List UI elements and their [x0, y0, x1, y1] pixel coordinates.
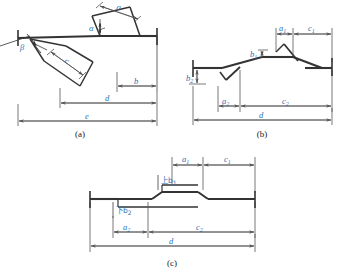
- panel-c-label-a2: a2: [123, 222, 130, 233]
- panel-a-label-d: d: [105, 93, 110, 103]
- panel-a-label-e: e: [85, 111, 89, 121]
- panel-b-profile: [193, 44, 332, 80]
- profile-lower-leg-left: [30, 39, 44, 61]
- panel-b-label-b1: b1: [250, 49, 257, 60]
- panel-c-dim-a1-c1: a1 c1: [172, 154, 255, 193]
- profile-upper-kicker: [284, 44, 298, 61]
- panel-b: b1 b2 a1 c1: [186, 23, 332, 139]
- panel-c: 上b1 下b2 a1 c1 a2: [90, 154, 255, 268]
- panel-c-dim-upper-b1: 上b1: [158, 175, 177, 190]
- panel-a-dim-d: d: [60, 88, 157, 108]
- panel-b-dim-d: d: [193, 86, 332, 125]
- panel-a-label-b: b: [134, 76, 138, 86]
- profile-fall: [293, 57, 322, 68]
- panel-c-dim-lower-b2: 下b2: [113, 202, 132, 218]
- panel-a-label-a: a: [115, 1, 122, 12]
- panel-a-label-beta: β: [19, 42, 25, 52]
- dim-a-ext-left: [96, 2, 103, 8]
- panel-a-dim-b: b: [117, 36, 157, 92]
- beta-tick: [0, 36, 30, 46]
- panel-b-label-b2: b2: [186, 73, 193, 84]
- panel-c-label-upper-b1: 上b1: [161, 176, 177, 186]
- panel-b-label-d: d: [259, 110, 264, 120]
- profile-lower-kicker: [226, 67, 240, 80]
- panel-a-dim-c: c: [47, 49, 86, 79]
- panel-b-dim-a2-c2: a2 c2: [218, 70, 332, 112]
- alpha-arc: [100, 28, 105, 30]
- profile-lower-kicker-tail: [220, 72, 226, 80]
- panel-c-label-c2: c2: [196, 222, 203, 233]
- panel-a: α β a c: [0, 1, 157, 139]
- panel-c-label-a1: a1: [182, 154, 189, 165]
- engineering-offset-diagram: α β a c: [0, 0, 345, 274]
- panel-b-label-c2: c2: [282, 96, 289, 107]
- panel-b-dim-b2: b2: [186, 70, 206, 84]
- panel-c-dim-d: d: [90, 202, 255, 252]
- panel-c-profile: [90, 185, 255, 207]
- profile-ramp-down: [198, 192, 208, 199]
- panel-b-label-c1: c1: [308, 23, 315, 34]
- dim-c-ext-left: [47, 49, 54, 55]
- profile-lower-bottom: [44, 61, 80, 86]
- profile-ramp-up: [152, 192, 162, 199]
- panel-c-label-d: d: [169, 236, 174, 246]
- panel-b-label-a1: a1: [279, 23, 286, 34]
- panel-c-label-c1: c1: [224, 154, 231, 165]
- profile-upper-kicker-tail: [276, 44, 284, 52]
- panel-a-caption: (a): [75, 129, 85, 139]
- panel-b-label-a2: a2: [222, 96, 229, 107]
- panel-a-label-c: c: [63, 55, 72, 65]
- panel-a-label-alpha: α: [89, 23, 94, 33]
- figure-canvas: α β a c: [0, 0, 345, 274]
- beta-arrow-b: [33, 43, 41, 53]
- panel-a-dim-e: e: [18, 104, 157, 126]
- panel-c-caption: (c): [167, 258, 177, 268]
- panel-a-profile: [18, 7, 157, 86]
- panel-b-caption: (b): [257, 129, 268, 139]
